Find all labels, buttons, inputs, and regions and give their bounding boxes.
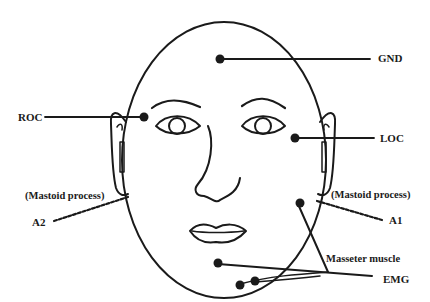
right-eyebrow [152, 100, 200, 108]
a2-label: A2 [32, 216, 45, 228]
emg-jaw-electrode-2 [251, 277, 260, 286]
left-iris [255, 118, 271, 134]
head-outline [122, 22, 326, 298]
loc-electrode [291, 134, 300, 143]
lips-line [192, 231, 244, 233]
gnd-label: GND [378, 52, 402, 64]
masseter-label: Masseter muscle [326, 253, 400, 265]
loc-label: LOC [380, 132, 404, 144]
roc-label: ROC [18, 111, 42, 123]
emg-label: EMG [383, 273, 409, 285]
masseter-electrode [296, 199, 305, 208]
emg-chin-electrode [214, 259, 223, 268]
left-eyebrow [242, 99, 285, 108]
gnd-electrode [216, 55, 225, 64]
emg-jaw-electrode-1 [236, 281, 245, 290]
nose [196, 126, 240, 201]
masseter-lead [298, 204, 328, 272]
roc-electrode [140, 113, 149, 122]
right-iris [169, 118, 185, 134]
a1-lead [317, 201, 382, 220]
mastoid-left-label: (Mastoid process) [25, 190, 104, 202]
lips [190, 225, 246, 243]
mastoid-right-label: (Mastoid process) [331, 189, 410, 201]
a1-label: A1 [389, 214, 402, 226]
